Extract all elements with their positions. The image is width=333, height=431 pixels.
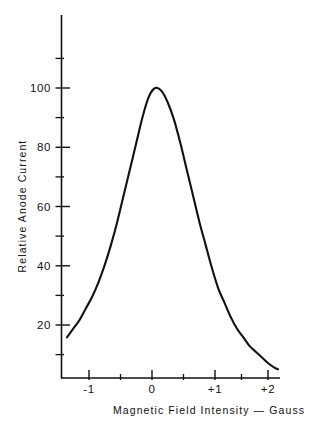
x-axis-title: Magnetic Field Intensity — Gauss <box>113 404 305 416</box>
chart-figure: 100 80 60 40 20 -1 0 +1 +2 Relative Anod… <box>0 0 333 431</box>
x-tick-label-zero: 0 <box>149 383 156 395</box>
y-tick-label-40: 40 <box>37 260 51 272</box>
y-tick-label-100: 100 <box>30 82 51 94</box>
y-tick-label-20: 20 <box>37 319 51 331</box>
anode-current-chart: 100 80 60 40 20 -1 0 +1 +2 Relative Anod… <box>0 0 333 431</box>
x-tick-label-plus2: +2 <box>261 383 275 395</box>
y-axis-title: Relative Anode Current <box>16 140 28 273</box>
y-tick-label-60: 60 <box>37 201 51 213</box>
x-tick-label-minus1: -1 <box>83 383 94 395</box>
chart-background <box>0 0 333 431</box>
y-tick-label-80: 80 <box>37 141 51 153</box>
x-tick-label-plus1: +1 <box>208 383 222 395</box>
